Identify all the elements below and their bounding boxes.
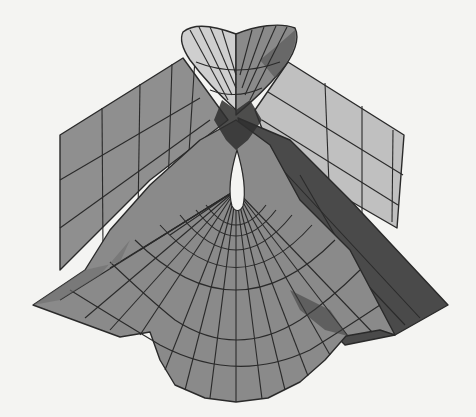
surface-figure xyxy=(0,0,476,417)
